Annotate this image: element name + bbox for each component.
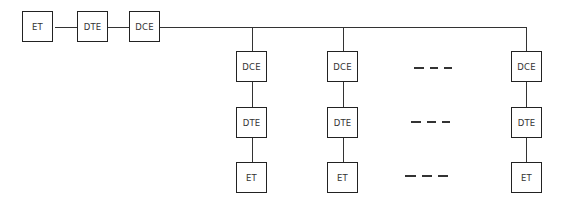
main-dte-label: DTE xyxy=(84,22,102,32)
main-dce-box: DCE xyxy=(129,11,160,42)
drop-1-dte-box: DTE xyxy=(236,107,267,138)
main-dce-label: DCE xyxy=(135,22,153,32)
drop-1-dte-label: DTE xyxy=(243,118,261,128)
drop-3-dce-label: DCE xyxy=(517,62,535,72)
drop-3-dte-label: DTE xyxy=(518,118,536,128)
drop-2-line xyxy=(343,27,344,167)
drop-3-dte-box: DTE xyxy=(511,107,542,138)
main-dte-box: DTE xyxy=(77,11,108,42)
ellipsis-dashes-dte-row xyxy=(411,121,450,123)
link-dte-dce xyxy=(108,27,129,28)
drop-2-et-box: ET xyxy=(327,162,358,193)
ellipsis-dashes-et-row xyxy=(405,175,448,177)
drop-2-et-label: ET xyxy=(337,173,348,183)
drop-1-line xyxy=(252,27,253,167)
drop-3-et-box: ET xyxy=(511,162,542,193)
drop-1-et-label: ET xyxy=(246,173,257,183)
drop-3-line xyxy=(526,27,527,167)
drop-1-dce-label: DCE xyxy=(242,62,260,72)
drop-2-dce-box: DCE xyxy=(327,51,358,82)
link-et-dte xyxy=(55,27,77,28)
main-et-box: ET xyxy=(22,11,53,42)
drop-2-dte-box: DTE xyxy=(327,107,358,138)
drop-2-dce-label: DCE xyxy=(333,62,351,72)
drop-3-et-label: ET xyxy=(521,173,532,183)
main-et-label: ET xyxy=(32,22,43,32)
ellipsis-dashes-dce-row xyxy=(414,67,452,69)
drop-2-dte-label: DTE xyxy=(334,118,352,128)
drop-1-et-box: ET xyxy=(236,162,267,193)
drop-1-dce-box: DCE xyxy=(236,51,267,82)
drop-3-dce-box: DCE xyxy=(511,51,542,82)
